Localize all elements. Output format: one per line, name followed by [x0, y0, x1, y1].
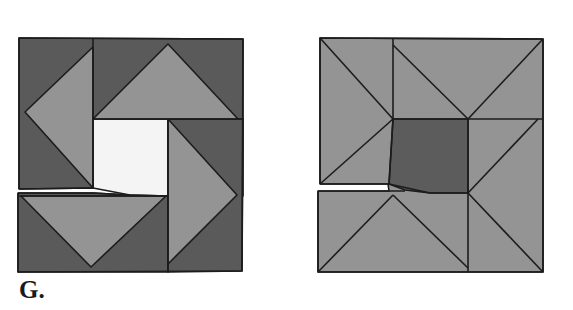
- right-center-square: [389, 119, 468, 193]
- left-center-square: [93, 119, 168, 196]
- quilt-diagram: [0, 0, 573, 310]
- figure-label: G.: [19, 276, 45, 304]
- right-quilt-block: [318, 38, 543, 272]
- left-quilt-block: [18, 38, 243, 272]
- quilt-figure: [0, 0, 573, 310]
